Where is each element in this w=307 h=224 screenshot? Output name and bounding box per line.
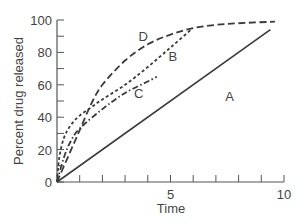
y-axis-title: Percent drug released xyxy=(11,37,26,165)
curve-label-a: A xyxy=(225,89,234,104)
series-group xyxy=(57,22,275,182)
curve-label-b: B xyxy=(168,49,177,64)
x-tick-label: 10 xyxy=(277,187,291,202)
curve-label-d: D xyxy=(139,29,148,44)
curve-label-c: C xyxy=(134,86,143,101)
y-tick-label: 100 xyxy=(30,13,52,28)
x-axis-title: Time xyxy=(157,201,185,216)
y-tick-label: 0 xyxy=(45,175,52,190)
drug-release-chart: 510020406080100 ABCD Time Percent drug r… xyxy=(0,0,307,224)
y-tick-label: 20 xyxy=(38,143,52,158)
x-tick-label: 5 xyxy=(167,187,174,202)
y-tick-label: 60 xyxy=(38,78,52,93)
y-tick-label: 40 xyxy=(38,110,52,125)
y-tick-label: 80 xyxy=(38,45,52,60)
